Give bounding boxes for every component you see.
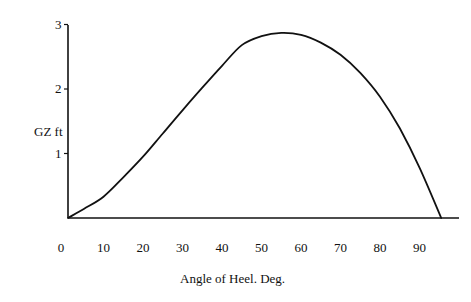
x-tick-label: 10 xyxy=(97,241,110,254)
x-tick-label: 40 xyxy=(216,241,229,254)
y-tick-label: 3 xyxy=(55,18,62,31)
y-tick-label: 1 xyxy=(55,147,62,160)
x-tick-label: 90 xyxy=(413,241,426,254)
x-tick-label: 0 xyxy=(58,241,65,254)
axes xyxy=(68,25,459,218)
x-tick-label: 70 xyxy=(334,241,347,254)
x-tick-label: 80 xyxy=(374,241,387,254)
gz-curve-line xyxy=(68,33,441,218)
y-tick-label: 2 xyxy=(55,82,62,95)
x-tick-label: 30 xyxy=(176,241,189,254)
x-tick-label: 20 xyxy=(137,241,150,254)
x-axis-title: Angle of Heel. Deg. xyxy=(180,272,285,285)
x-tick-label: 50 xyxy=(255,241,268,254)
y-axis-title: GZ ft xyxy=(34,125,63,138)
x-tick-label: 60 xyxy=(295,241,308,254)
gz-stability-chart xyxy=(0,0,471,302)
